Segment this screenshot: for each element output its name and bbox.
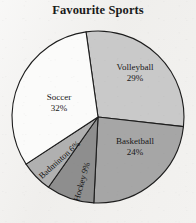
pie-label-volleyball-pct: 29% bbox=[104, 73, 166, 84]
pie-label-volleyball-name: Volleyball bbox=[117, 62, 154, 72]
pie-chart-svg bbox=[0, 0, 196, 223]
pie-label-volleyball: Volleyball 29% bbox=[104, 62, 166, 83]
pie-label-soccer-name: Soccer bbox=[47, 92, 72, 102]
pie-chart: Volleyball 29% Basketball 24% Soccer 32%… bbox=[0, 0, 196, 223]
pie-slice-group bbox=[12, 31, 184, 203]
pie-label-soccer-pct: 32% bbox=[32, 103, 86, 114]
pie-label-basketball-pct: 24% bbox=[104, 147, 166, 158]
pie-slice-basketball[interactable] bbox=[94, 117, 184, 203]
chart-page: Favourite Sports Volleyball 29% Basketba… bbox=[0, 0, 196, 223]
pie-label-basketball-name: Basketball bbox=[116, 136, 154, 146]
pie-label-soccer: Soccer 32% bbox=[32, 92, 86, 113]
pie-label-basketball: Basketball 24% bbox=[104, 136, 166, 157]
